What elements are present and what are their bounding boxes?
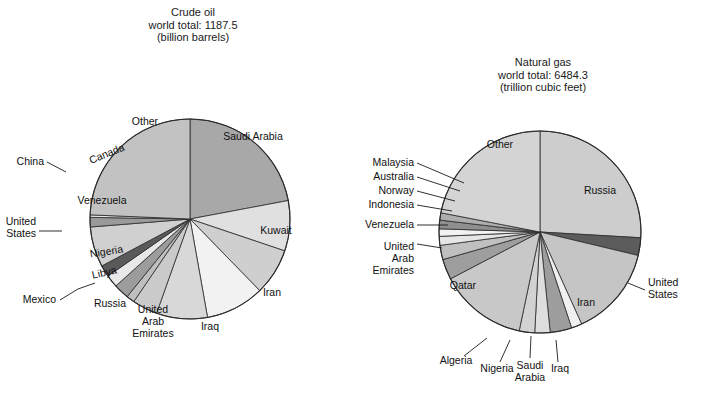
slice-label-qatar: Qatar	[450, 279, 477, 291]
slice-label-china: China	[17, 155, 45, 167]
pie-chart-figure: Saudi ArabiaKuwaitIranIraqUnitedArabEmir…	[0, 0, 706, 394]
wedges-natural-gas	[439, 131, 641, 333]
slice-label-saudi-arabia: SaudiArabia	[515, 359, 546, 383]
slice-label-iran: Iran	[263, 286, 281, 298]
slice-label-algeria: Algeria	[440, 354, 473, 366]
slice-label-venezuela: Venezuela	[365, 218, 414, 230]
slice-label-united-states: UnitedStates	[648, 276, 679, 300]
slice-label-malaysia: Malaysia	[373, 156, 415, 168]
slice-label-iran: Iran	[577, 296, 595, 308]
slice-label-norway: Norway	[378, 184, 414, 196]
slice-label-iraq: Iraq	[201, 320, 219, 332]
slice-label-nigeria: Nigeria	[480, 362, 513, 374]
slice-label-venezuela: Venezuela	[77, 194, 126, 206]
slice-label-other: Other	[487, 138, 514, 150]
slice-label-united-states: UnitedStates	[6, 215, 37, 239]
slice-label-indonesia: Indonesia	[368, 198, 414, 210]
slice-label-russia: Russia	[94, 297, 126, 309]
slice-label-saudi-arabia: Saudi Arabia	[223, 130, 283, 142]
slice-label-mexico: Mexico	[23, 293, 56, 305]
slice-label-russia: Russia	[584, 184, 616, 196]
slice-label-australia: Australia	[373, 170, 414, 182]
slice-label-iraq: Iraq	[551, 362, 569, 374]
slice-label-other: Other	[132, 115, 159, 127]
slice-label-kuwait: Kuwait	[260, 224, 292, 236]
